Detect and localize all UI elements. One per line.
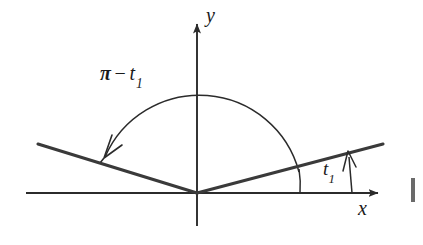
t1-pointer-line xyxy=(349,157,352,193)
angle-label-t1: t1 xyxy=(323,158,335,184)
left-ray xyxy=(38,144,197,193)
right-ray xyxy=(197,144,383,193)
x-axis-label: x xyxy=(358,197,367,220)
t1-subscript: 1 xyxy=(329,171,335,186)
edge-artifact-mark xyxy=(411,178,415,202)
y-axis-label: y xyxy=(206,4,215,27)
supplement-arc xyxy=(105,95,299,172)
t1-variable: t xyxy=(323,158,328,179)
t-variable: t xyxy=(130,62,136,84)
figure-container: π−t1 t1 y x xyxy=(0,0,423,245)
minus-operator: − xyxy=(111,62,129,84)
t-subscript: 1 xyxy=(136,76,143,91)
pi-symbol: π xyxy=(100,62,111,84)
t1-arc xyxy=(299,169,300,193)
supplement-arc-arrowhead xyxy=(100,135,122,163)
angle-label-pi-minus-t1: π−t1 xyxy=(100,62,143,89)
